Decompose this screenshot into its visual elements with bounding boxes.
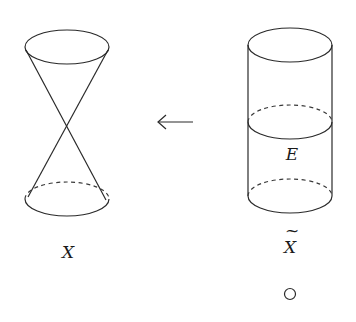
label-X-tilde-base: X: [282, 237, 297, 257]
label-X: X: [60, 242, 75, 262]
diagram-canvas: E X X ~: [0, 0, 356, 322]
cylinder-top-ellipse: [248, 28, 332, 62]
cone-bottom-front: [25, 199, 109, 216]
cylinder-middle-back-dashed: [248, 105, 332, 122]
cylinder-bottom-back-dashed: [248, 179, 332, 196]
arrow-left-icon: [158, 115, 193, 129]
label-X-tilde-accent: ~: [285, 220, 299, 240]
label-X-tilde: X ~: [282, 220, 299, 257]
label-E: E: [285, 144, 299, 164]
cylinder-middle-front: [248, 122, 332, 139]
cone-top-ellipse: [25, 30, 109, 64]
double-cone: [25, 30, 109, 216]
cone-side-line: [28, 50, 108, 197]
cylinder: [248, 28, 332, 213]
cone-bottom-back-dashed: [25, 182, 109, 199]
circle-symbol-icon: [285, 289, 296, 300]
cylinder-bottom-front: [248, 196, 332, 213]
